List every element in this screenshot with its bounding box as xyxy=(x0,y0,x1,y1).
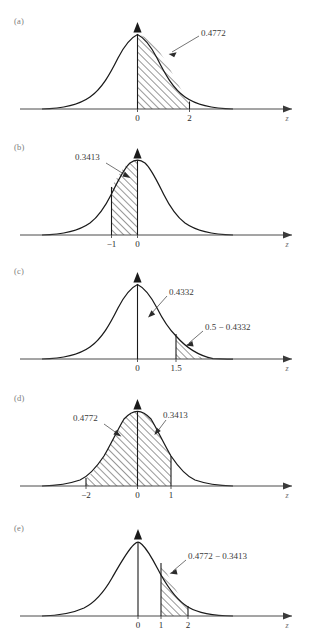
annotation-0.3413: 0.3413 xyxy=(154,410,188,435)
annotation-label: 0.4772 xyxy=(201,28,226,38)
annotation-label: 0.4772 xyxy=(73,413,98,423)
axis-label-z: z xyxy=(284,240,289,249)
axis-arrowhead xyxy=(283,482,292,489)
tick-label-2: 2 xyxy=(187,113,192,123)
annotation-0.4772: 0.4772 xyxy=(169,28,226,57)
tick-label-0: 0 xyxy=(135,490,140,500)
annotation-0.4332: 0.4332 xyxy=(148,287,194,318)
axis-label-z: z xyxy=(284,364,289,373)
tick-label-1: 1 xyxy=(169,490,174,500)
axis-arrowhead xyxy=(283,105,292,112)
annotation-label: 0.3413 xyxy=(75,152,100,162)
panel-a: (a) xyxy=(0,0,312,127)
peak-arrowhead xyxy=(133,272,141,283)
peak-arrowhead xyxy=(133,148,141,159)
tick-label-0: 0 xyxy=(135,239,140,249)
axis-arrowhead xyxy=(283,231,292,238)
annotation-label: 0.4332 xyxy=(169,287,194,297)
tick-label-0: 0 xyxy=(136,620,141,630)
tick-label-minus2: −2 xyxy=(81,490,91,500)
tick-label-1: 1 xyxy=(159,620,164,630)
panel-d-plot: −2 0 1 z 0.4772 0.3413 xyxy=(0,377,312,504)
panel-c-plot: 0 1.5 z 0.4332 0.5 − 0.4332 xyxy=(0,250,312,377)
panel-e-plot: 0 1 2 z 0.4772 − 0.3413 xyxy=(0,507,312,634)
panel-a-plot: 0 2 z 0.4772 xyxy=(0,0,312,127)
panel-b-plot: −1 0 z 0.3413 xyxy=(0,126,312,253)
tick-label-0: 0 xyxy=(135,113,140,123)
axis-arrowhead xyxy=(283,612,292,619)
annotation-label: 0.3413 xyxy=(163,410,188,420)
normal-distribution-figure: (a) xyxy=(0,0,312,636)
tick-label-2: 2 xyxy=(186,620,191,630)
axis-arrowhead xyxy=(283,355,292,362)
tick-label-minus1: −1 xyxy=(107,239,117,249)
panel-d: (d) xyxy=(0,377,312,504)
peak-arrowhead xyxy=(133,22,141,33)
annotation-0.4772: 0.4772 xyxy=(73,413,121,436)
peak-arrowhead xyxy=(133,399,141,410)
peak-arrowhead xyxy=(134,529,142,540)
annotation-label: 0.5 − 0.4332 xyxy=(205,322,251,332)
tick-label-0: 0 xyxy=(135,363,140,373)
panel-e: (e) 0 1 xyxy=(0,507,312,634)
annotation-0.4772-minus-0.3413: 0.4772 − 0.3413 xyxy=(170,551,248,574)
panel-c: (c) 0 1.5 z xyxy=(0,250,312,377)
panel-b: (b) −1 0 z xyxy=(0,126,312,253)
axis-label-z: z xyxy=(284,491,289,500)
annotation-0.5-minus-0.4332: 0.5 − 0.4332 xyxy=(186,322,251,346)
annotation-label: 0.4772 − 0.3413 xyxy=(188,551,248,561)
axis-label-z: z xyxy=(284,621,289,630)
tick-label-1.5: 1.5 xyxy=(170,363,182,373)
axis-label-z: z xyxy=(284,114,289,123)
